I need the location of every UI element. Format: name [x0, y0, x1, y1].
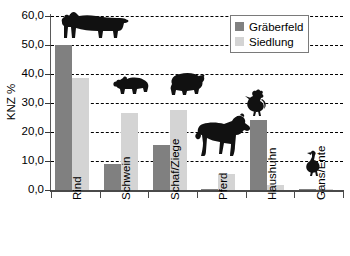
gridline: [51, 132, 343, 133]
legend-item: Siedlung: [235, 34, 303, 49]
y-tick-label: 20,0: [10, 126, 44, 138]
bar-schwein-gräberfeld: [104, 164, 121, 190]
bar-pferd-gräberfeld: [201, 189, 218, 190]
bar-gans-ente-gräberfeld: [299, 189, 316, 190]
y-tick-mark: [45, 103, 51, 104]
legend-label: Siedlung: [249, 36, 294, 48]
legend: GräberfeldSiedlung: [230, 15, 309, 53]
x-tick-mark: [51, 192, 52, 198]
y-tick-label: 0,0: [10, 184, 44, 196]
legend-item: Gräberfeld: [235, 19, 303, 34]
y-tick-mark: [45, 190, 51, 191]
gridline: [51, 161, 343, 162]
legend-swatch: [235, 22, 244, 31]
y-tick-mark: [45, 45, 51, 46]
legend-label: Gräberfeld: [249, 21, 303, 33]
bar-rind-gräberfeld: [55, 45, 72, 190]
bar-haushuhn-gräberfeld: [250, 120, 267, 190]
y-tick-label: 30,0: [10, 97, 44, 109]
x-category-label: Pferd: [217, 173, 229, 201]
x-tick-mark: [100, 192, 101, 198]
bar-chart: KNZ % 0,010,020,030,040,050,060,0 RindSc…: [0, 0, 350, 256]
bar-schaf-ziege-gräberfeld: [153, 145, 170, 190]
y-tick-label: 60,0: [10, 10, 44, 22]
y-tick-mark: [45, 132, 51, 133]
y-tick-mark: [45, 161, 51, 162]
bar-rind-siedlung: [72, 78, 89, 190]
legend-swatch: [235, 37, 244, 46]
x-category-label: Rind: [71, 176, 83, 200]
y-tick-labels: 0,010,020,030,040,050,060,0: [10, 0, 44, 256]
x-tick-mark: [197, 192, 198, 198]
x-tick-mark: [294, 192, 295, 198]
y-tick-mark: [45, 74, 51, 75]
gridline: [51, 74, 343, 75]
y-tick-label: 50,0: [10, 39, 44, 51]
x-category-label: Schwein: [120, 157, 132, 200]
x-tick-mark: [148, 192, 149, 198]
x-category-label: Schaf/Ziege: [169, 139, 181, 200]
x-tick-mark: [246, 192, 247, 198]
x-tick-mark: [343, 192, 344, 198]
gridline: [51, 103, 343, 104]
x-category-label: Haushuhn: [266, 148, 278, 200]
y-tick-label: 40,0: [10, 68, 44, 80]
y-tick-mark: [45, 16, 51, 17]
x-category-label: Gans/Ente: [315, 146, 327, 200]
y-tick-label: 10,0: [10, 155, 44, 167]
